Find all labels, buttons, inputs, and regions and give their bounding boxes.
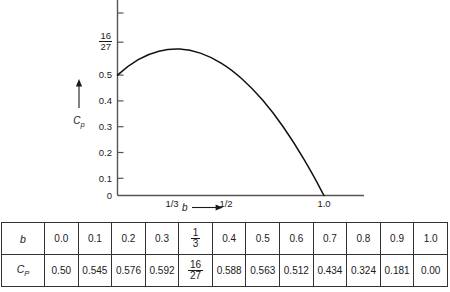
fraction-one-third: 1 3 <box>191 228 201 250</box>
table-cell: 0.545 <box>78 255 112 287</box>
table-cell: 0.588 <box>212 255 246 287</box>
table-cell: 0.3 <box>145 223 179 255</box>
y-axis-label-subscript: p <box>81 120 85 129</box>
fraction-16-27: 16 27 <box>99 31 112 51</box>
table-cell: 0.6 <box>280 223 314 255</box>
table-cell: 0.0 <box>45 223 79 255</box>
table-cell: 1.0 <box>414 223 448 255</box>
fraction-denominator: 3 <box>191 238 201 250</box>
table-cell: 0.7 <box>313 223 347 255</box>
x-axis-label: b <box>182 202 188 213</box>
x-axis-label-group: b <box>182 202 224 213</box>
y-axis-ticks <box>118 13 124 178</box>
right-arrow-icon <box>192 202 224 213</box>
y-tick-label-16-27: 16 27 <box>82 31 112 51</box>
up-arrow-icon <box>73 78 85 110</box>
table-cell: 0.563 <box>246 255 280 287</box>
y-axis-label: Cp <box>73 115 84 126</box>
table-cell: 0.8 <box>347 223 381 255</box>
y-axis-label-base: C <box>73 115 80 126</box>
table-row: CP 0.50 0.545 0.576 0.592 16 27 0.588 0.… <box>2 255 448 287</box>
table-cell: 0.576 <box>112 255 146 287</box>
table-cell-fraction: 1 3 <box>179 223 213 255</box>
y-tick-label-0.2: 0.2 <box>82 148 112 158</box>
cp-curve <box>118 49 325 195</box>
row-header-cp: CP <box>2 255 45 287</box>
table-cell: 0.9 <box>380 223 414 255</box>
table-cell: 0.4 <box>212 223 246 255</box>
cp-data-table: b 0.0 0.1 0.2 0.3 1 3 0.4 0.5 0.6 0.7 0.… <box>1 222 448 287</box>
y-tick-label-0: 0 <box>82 191 112 201</box>
x-tick-label-one: 1.0 <box>304 199 344 209</box>
table-cell: 0.434 <box>313 255 347 287</box>
table-cell-fraction: 16 27 <box>179 255 213 287</box>
row-header-b: b <box>2 223 45 255</box>
row-header-b-base: b <box>20 233 26 245</box>
table-cell: 0.512 <box>280 255 314 287</box>
fraction-denominator: 27 <box>188 270 203 282</box>
table-row: b 0.0 0.1 0.2 0.3 1 3 0.4 0.5 0.6 0.7 0.… <box>2 223 448 255</box>
y-axis-label-group: Cp <box>62 78 96 129</box>
y-tick-label-0.1: 0.1 <box>82 174 112 184</box>
table-cell: 0.592 <box>145 255 179 287</box>
table-cell: 0.1 <box>78 223 112 255</box>
fraction-denominator: 27 <box>99 41 112 52</box>
table-body: b 0.0 0.1 0.2 0.3 1 3 0.4 0.5 0.6 0.7 0.… <box>2 223 448 287</box>
table-cell: 0.50 <box>45 255 79 287</box>
table-cell: 0.181 <box>380 255 414 287</box>
fraction-16-27: 16 27 <box>188 260 203 282</box>
table-cell: 0.324 <box>347 255 381 287</box>
chart-region: 0 0.1 0.2 0.3 0.4 0.5 16 27 1/3 1/2 1.0 … <box>0 0 450 214</box>
fraction-numerator: 16 <box>188 260 203 271</box>
table-cell: 0.00 <box>414 255 448 287</box>
fraction-numerator: 1 <box>191 228 201 239</box>
fraction-numerator: 16 <box>99 31 112 41</box>
table-cell: 0.2 <box>112 223 146 255</box>
table-cell: 0.5 <box>246 223 280 255</box>
row-header-cp-subscript: P <box>24 269 29 278</box>
